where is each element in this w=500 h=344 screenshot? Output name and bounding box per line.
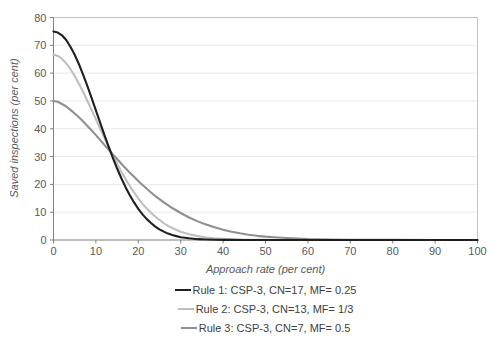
x-tick-label-0: 0	[50, 245, 56, 257]
legend-label: Rule 1: CSP-3, CN=17, MF= 0.25	[193, 284, 357, 296]
legend: Rule 1: CSP-3, CN=17, MF= 0.25Rule 2: CS…	[53, 280, 478, 337]
legend-item-rule-2: Rule 2: CSP-3, CN=13, MF= 1/3	[178, 299, 354, 318]
y-tick-label-10: 10	[34, 206, 46, 218]
legend-line-swatch	[178, 308, 194, 310]
y-tick-label-60: 60	[34, 67, 46, 79]
legend-item-rule-1: Rule 1: CSP-3, CN=17, MF= 0.25	[175, 280, 357, 299]
x-axis-title: Approach rate (per cent)	[53, 263, 478, 275]
chart-canvas: 010203040506070809010001020304050607080 …	[0, 0, 500, 344]
legend-line-swatch	[181, 327, 197, 329]
legend-label: Rule 2: CSP-3, CN=13, MF= 1/3	[196, 303, 354, 315]
x-tick-label-40: 40	[217, 245, 229, 257]
legend-item-rule-3: Rule 3: CSP-3, CN=7, MF= 0.5	[181, 318, 351, 337]
y-tick-label-20: 20	[34, 178, 46, 190]
x-tick-label-20: 20	[132, 245, 144, 257]
legend-line-swatch	[175, 289, 191, 291]
x-tick-label-100: 100	[468, 245, 486, 257]
y-tick-label-0: 0	[40, 234, 46, 246]
x-tick-label-90: 90	[429, 245, 441, 257]
y-tick-label-80: 80	[34, 12, 46, 24]
x-tick-label-60: 60	[302, 245, 314, 257]
x-tick-label-80: 80	[387, 245, 399, 257]
y-tick-label-40: 40	[34, 123, 46, 135]
y-tick-label-50: 50	[34, 95, 46, 107]
x-tick-label-70: 70	[344, 245, 356, 257]
series-line-rule-1	[54, 31, 478, 240]
x-tick-label-10: 10	[90, 245, 102, 257]
y-tick-label-30: 30	[34, 151, 46, 163]
x-tick-label-30: 30	[175, 245, 187, 257]
y-tick-label-70: 70	[34, 39, 46, 51]
legend-label: Rule 3: CSP-3, CN=7, MF= 0.5	[199, 322, 351, 334]
x-tick-label-50: 50	[259, 245, 271, 257]
y-axis-title: Saved inspections (per cent)	[8, 18, 20, 238]
